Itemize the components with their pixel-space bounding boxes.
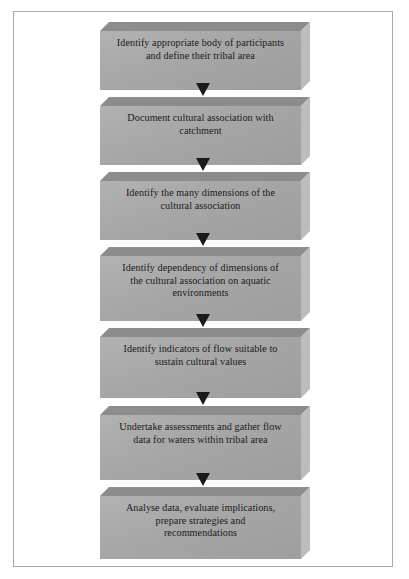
flow-connector-2	[196, 158, 211, 171]
flow-connector-6	[196, 473, 211, 486]
block-front-face: Document cultural association with catch…	[100, 106, 301, 165]
process-block: Document cultural association with catch…	[100, 97, 310, 165]
flow-connector-3	[196, 233, 211, 246]
flow-node-label: Identify indicators of flow suitable to …	[109, 343, 292, 368]
flow-connector-4	[196, 314, 211, 327]
flow-node-1[interactable]: Identify appropriate body of participant…	[100, 22, 310, 90]
flow-node-7[interactable]: Analyse data, evaluate implications, pre…	[100, 487, 310, 559]
flow-node-label: Undertake assessments and gather flow da…	[109, 421, 292, 446]
flow-connector-1	[196, 83, 211, 96]
block-front-face: Undertake assessments and gather flow da…	[100, 415, 301, 480]
process-block: Analyse data, evaluate implications, pre…	[100, 487, 310, 559]
flow-node-label: Identify dependency of dimensions of the…	[109, 262, 292, 300]
process-block: Identify dependency of dimensions of the…	[100, 247, 310, 321]
process-block: Undertake assessments and gather flow da…	[100, 406, 310, 480]
block-front-face: Analyse data, evaluate implications, pre…	[100, 496, 301, 559]
arrow-down-icon	[196, 392, 210, 405]
flow-node-4[interactable]: Identify dependency of dimensions of the…	[100, 247, 310, 321]
block-front-face: Identify indicators of flow suitable to …	[100, 337, 301, 398]
flow-node-3[interactable]: Identify the many dimensions of the cult…	[100, 172, 310, 240]
process-block: Identify the many dimensions of the cult…	[100, 172, 310, 240]
flow-node-2[interactable]: Document cultural association with catch…	[100, 97, 310, 165]
arrow-down-icon	[196, 314, 210, 327]
flowchart-diagram: Identify appropriate body of participant…	[0, 0, 409, 579]
flow-connector-5	[196, 392, 211, 405]
process-block: Identify appropriate body of participant…	[100, 22, 310, 90]
flow-node-label: Identify appropriate body of participant…	[109, 37, 292, 62]
arrow-down-icon	[196, 83, 210, 96]
block-front-face: Identify appropriate body of participant…	[100, 31, 301, 90]
arrow-down-icon	[196, 158, 210, 171]
arrow-down-icon	[196, 233, 210, 246]
flow-node-label: Document cultural association with catch…	[109, 112, 292, 137]
block-front-face: Identify dependency of dimensions of the…	[100, 256, 301, 321]
flow-node-label: Analyse data, evaluate implications, pre…	[109, 502, 292, 540]
flow-node-6[interactable]: Undertake assessments and gather flow da…	[100, 406, 310, 480]
figure-page: Identify appropriate body of participant…	[0, 0, 409, 579]
flow-node-5[interactable]: Identify indicators of flow suitable to …	[100, 328, 310, 398]
block-front-face: Identify the many dimensions of the cult…	[100, 181, 301, 240]
flow-node-label: Identify the many dimensions of the cult…	[109, 187, 292, 212]
process-block: Identify indicators of flow suitable to …	[100, 328, 310, 398]
arrow-down-icon	[196, 473, 210, 486]
